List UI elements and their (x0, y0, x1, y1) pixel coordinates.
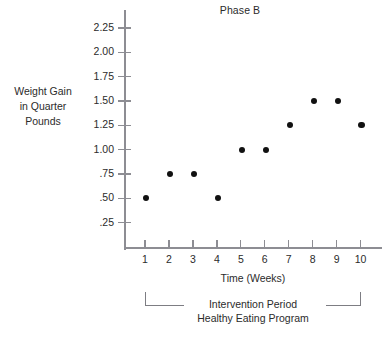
x-axis-title: Time (Weeks) (124, 272, 382, 284)
data-point (358, 122, 364, 128)
data-point (263, 147, 269, 153)
y-axis-tick (118, 173, 131, 174)
x-axis-tick (240, 240, 241, 249)
y-axis-tick (118, 198, 131, 199)
x-axis-tick-label: 3 (180, 253, 206, 265)
x-axis-line (124, 247, 382, 249)
data-point (287, 122, 293, 128)
x-axis-tick (264, 240, 265, 249)
data-point (215, 195, 221, 201)
x-axis-tick (336, 240, 337, 249)
y-axis-tick (118, 125, 131, 126)
x-axis-tick (168, 240, 169, 249)
x-axis-tick (216, 240, 217, 249)
x-axis-tick-label: 7 (276, 253, 302, 265)
x-axis-tick-label: 2 (156, 253, 182, 265)
x-axis-tick-label: 9 (324, 253, 350, 265)
x-axis-tick (360, 240, 361, 249)
y-axis-tick-label: 1.50 (72, 94, 114, 106)
data-point (311, 98, 317, 104)
y-axis-tick-label: 1.25 (72, 118, 114, 130)
x-axis-tick-label: 8 (300, 253, 326, 265)
y-axis-tick-label: 2.00 (72, 45, 114, 57)
x-axis-tick (312, 240, 313, 249)
y-axis-tick-label: .25 (72, 216, 114, 228)
y-axis-tick-label: 1.75 (72, 70, 114, 82)
chart-title: Phase B (0, 4, 384, 16)
healthy-eating-program-label: Healthy Eating Program (124, 312, 382, 324)
y-axis-tick-label: .50 (72, 191, 114, 203)
y-axis-tick (118, 76, 131, 77)
data-point (239, 147, 245, 153)
y-axis-line (124, 10, 126, 250)
x-axis-tick (144, 240, 145, 249)
y-axis-tick-label: 1.00 (72, 143, 114, 155)
data-point (191, 171, 197, 177)
x-axis-tick-label: 4 (204, 253, 230, 265)
y-axis-tick-label: .75 (72, 167, 114, 179)
data-point (167, 171, 173, 177)
y-axis-tick-label: 2.25 (72, 21, 114, 33)
scatter-chart: Phase B Weight Gain in Quarter Pounds 2.… (0, 0, 384, 342)
y-axis-tick (118, 149, 131, 150)
data-point (143, 195, 149, 201)
x-axis-tick (192, 240, 193, 249)
x-axis-tick (288, 240, 289, 249)
y-axis-tick (118, 222, 131, 223)
y-axis-tick (118, 52, 131, 53)
x-axis-tick-label: 5 (228, 253, 254, 265)
x-axis-tick-label: 1 (132, 253, 158, 265)
x-axis-tick-label: 6 (252, 253, 278, 265)
y-axis-tick (118, 27, 131, 28)
x-axis-tick-label: 10 (348, 253, 374, 265)
y-axis-tick (118, 100, 131, 101)
data-point (335, 98, 341, 104)
intervention-period-label: Intervention Period (124, 298, 382, 310)
